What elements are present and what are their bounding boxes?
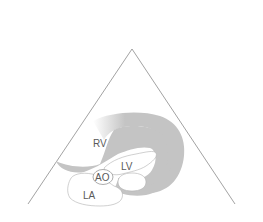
- chambers: [68, 151, 157, 206]
- lv-inflow: [118, 173, 146, 191]
- label-la: LA: [83, 190, 96, 201]
- label-rv: RV: [93, 138, 107, 149]
- echo-diagram: RV LV AO LA: [0, 0, 263, 222]
- label-ao: AO: [95, 172, 110, 183]
- label-lv: LV: [121, 161, 133, 172]
